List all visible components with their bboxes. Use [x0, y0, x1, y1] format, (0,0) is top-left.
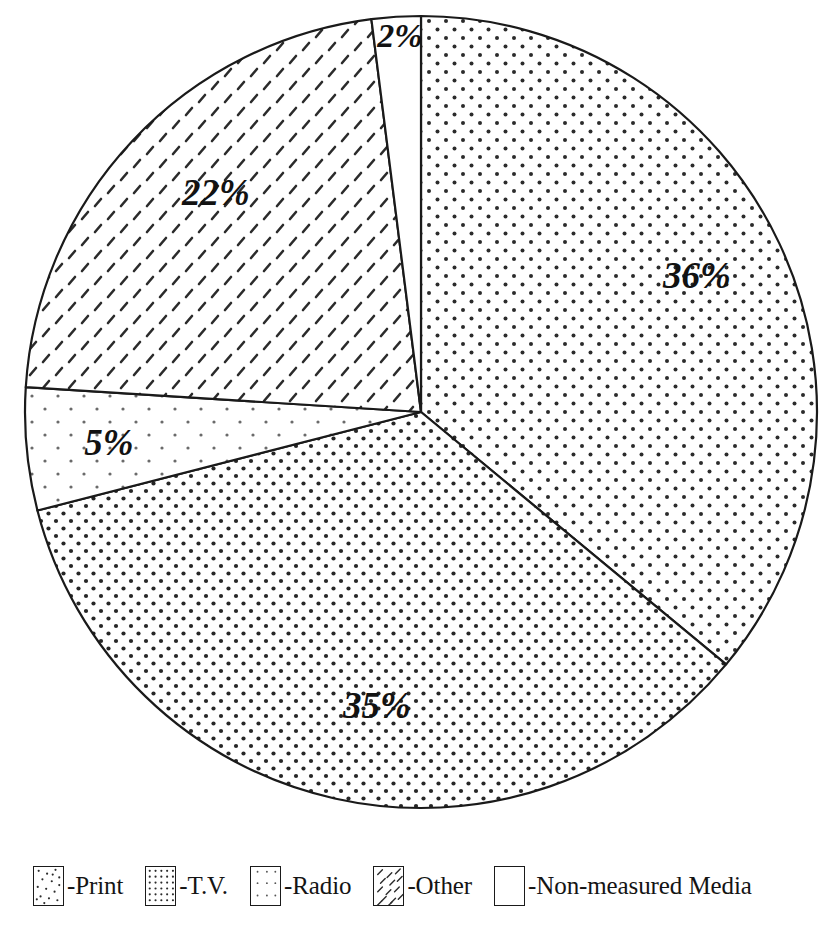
pie-slices	[25, 16, 817, 808]
legend-swatch-icon	[250, 866, 281, 906]
legend-item[interactable]: -Radio	[250, 866, 351, 906]
legend-item-label: -Non-measured Media	[528, 872, 752, 900]
slice-value-label: 36%	[662, 255, 731, 296]
chart-legend: -Print-T.V.-Radio-Other-Non-measured Med…	[0, 855, 838, 917]
legend-swatch-icon	[494, 866, 525, 906]
legend-item[interactable]: -Print	[33, 866, 123, 906]
legend-item-label: -Print	[67, 872, 123, 900]
slice-value-label: 2%	[376, 17, 422, 54]
legend-item-label: -T.V.	[179, 872, 228, 900]
slice-value-label: 22%	[181, 172, 250, 213]
pie-chart-figure: 36%35%5%22%2% -Print-T.V.-Radio-Other-No…	[0, 0, 838, 932]
legend-item[interactable]: -Non-measured Media	[494, 866, 752, 906]
legend-item-label: -Other	[407, 872, 472, 900]
slice-value-label: 35%	[342, 685, 411, 726]
legend-item[interactable]: -T.V.	[145, 866, 228, 906]
legend-item-label: -Radio	[284, 872, 351, 900]
legend-swatch-icon	[33, 866, 64, 906]
legend-item[interactable]: -Other	[373, 866, 472, 906]
slice-value-label: 5%	[84, 422, 133, 463]
legend-swatch-icon	[373, 866, 404, 906]
pie-svg: 36%35%5%22%2%	[0, 0, 838, 838]
legend-swatch-icon	[145, 866, 176, 906]
pie-slice[interactable]	[26, 19, 421, 412]
pie-chart-canvas: 36%35%5%22%2%	[0, 0, 838, 838]
